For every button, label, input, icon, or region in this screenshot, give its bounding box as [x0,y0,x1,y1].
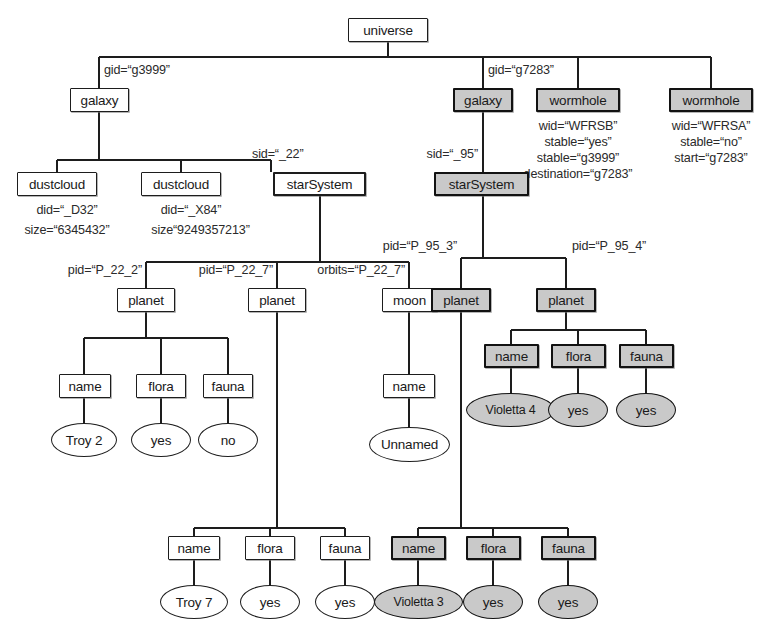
text-troy7-flora[interactable]: yes [240,585,300,619]
attr-gid-g7283: gid=“g7283” [488,62,554,79]
node-planet-95-3-label: planet [443,293,479,308]
attr-wormhole-b-stable-2: stable=“g3999” [498,150,658,167]
node-galaxy-right[interactable]: galaxy [453,88,513,112]
attr-did-x84: did=“_X84” [136,202,246,219]
node-galaxy-left-label: galaxy [81,93,119,108]
node-planet-95-3[interactable]: planet [431,288,491,312]
node-starsystem-22[interactable]: starSystem [273,172,366,196]
node-fauna-violetta3-label: fauna [552,541,585,556]
node-fauna-violetta4-label: fauna [630,349,663,364]
node-universe-label: universe [363,23,412,38]
node-universe[interactable]: universe [348,18,428,42]
attr-did-d32: did=“_D32” [12,202,122,219]
text-violetta4-flora[interactable]: yes [548,393,608,427]
text-violetta4-fauna[interactable]: yes [616,393,676,427]
node-fauna-troy2[interactable]: fauna [203,374,253,398]
node-name-troy7-label: name [178,541,211,556]
attr-wormhole-a-stable: stable=“no” [641,134,761,151]
node-name-violetta4-label: name [495,349,528,364]
node-dustcloud-1[interactable]: dustcloud [17,172,97,196]
text-troy2-fauna[interactable]: no [198,423,258,457]
node-planet-95-4[interactable]: planet [536,288,596,312]
node-name-troy7[interactable]: name [168,536,220,560]
node-starsystem-95[interactable]: starSystem [434,172,529,196]
node-name-moon-label: name [393,379,426,394]
node-galaxy-right-label: galaxy [464,93,502,108]
node-wormhole-b[interactable]: wormhole [536,88,620,112]
text-unnamed[interactable]: Unnamed [369,427,450,462]
text-troy7-flora-label: yes [260,595,280,610]
text-troy2[interactable]: Troy 2 [51,423,117,457]
node-flora-troy7-label: flora [257,541,282,556]
text-troy2-label: Troy 2 [66,433,103,448]
attr-pid-95-3: pid=“P_95_3” [367,238,457,255]
attr-wormhole-b-wid: wid=“WFRSB” [498,118,658,135]
node-name-violetta4[interactable]: name [484,344,539,368]
node-flora-troy2[interactable]: flora [136,374,186,398]
node-name-violetta3-label: name [402,541,435,556]
attr-pid-22-7: pid=“P_22_7” [183,262,273,279]
node-flora-violetta4-label: flora [566,349,591,364]
text-violetta3[interactable]: Violetta 3 [374,585,463,619]
node-name-moon[interactable]: name [383,374,435,398]
diagram-canvas: universe gid=“g3999” gid=“g7283” galaxy … [0,0,761,644]
text-violetta3-fauna[interactable]: yes [538,585,598,619]
text-violetta4-fauna-label: yes [636,403,656,418]
node-moon-22-7-label: moon [393,293,426,308]
attr-wormhole-b-stable: stable=“yes” [498,134,658,151]
text-troy7-fauna[interactable]: yes [315,585,375,619]
node-planet-22-2[interactable]: planet [117,288,175,312]
node-flora-troy2-label: flora [148,379,173,394]
node-name-troy2-label: name [69,379,102,394]
text-troy7-label: Troy 7 [176,595,213,610]
attr-wormhole-a-start: start=“g7283” [641,150,761,167]
node-moon-22-7[interactable]: moon [382,288,437,312]
node-fauna-violetta4[interactable]: fauna [619,344,674,368]
text-violetta4-flora-label: yes [568,403,588,418]
attr-wormhole-a-wid: wid=“WFRSA” [641,118,761,135]
node-galaxy-left[interactable]: galaxy [70,88,129,112]
node-starsystem-22-label: starSystem [287,177,353,192]
node-flora-violetta3[interactable]: flora [466,536,521,560]
node-flora-violetta4[interactable]: flora [551,344,606,368]
node-planet-22-2-label: planet [128,293,164,308]
text-troy2-fauna-label: no [221,433,236,448]
node-wormhole-b-label: wormhole [550,93,607,108]
node-fauna-troy7[interactable]: fauna [320,536,370,560]
attr-size-d32: size=“6345432” [2,222,132,239]
node-flora-violetta3-label: flora [481,541,506,556]
node-dustcloud-2-label: dustcloud [153,177,209,192]
node-fauna-violetta3[interactable]: fauna [541,536,596,560]
text-troy2-flora[interactable]: yes [131,423,191,457]
node-flora-troy7[interactable]: flora [245,536,295,560]
text-violetta3-label: Violetta 3 [394,595,444,609]
text-troy2-flora-label: yes [151,433,171,448]
text-troy7-fauna-label: yes [335,595,355,610]
text-violetta3-flora-label: yes [483,595,503,610]
node-name-violetta3[interactable]: name [391,536,446,560]
node-wormhole-a[interactable]: wormhole [669,88,753,112]
text-unnamed-label: Unnamed [381,437,438,452]
attr-orbits-22-7: orbits=“P_22_7” [295,262,405,279]
node-fauna-troy7-label: fauna [329,541,362,556]
node-name-troy2[interactable]: name [59,374,111,398]
node-planet-22-7-label: planet [259,293,295,308]
node-dustcloud-1-label: dustcloud [29,177,85,192]
attr-sid-95: sid=“_95” [398,146,478,163]
attr-pid-22-2: pid=“P_22_2” [52,262,142,279]
node-planet-95-4-label: planet [548,293,584,308]
text-violetta4[interactable]: Violetta 4 [466,393,555,427]
node-wormhole-a-label: wormhole [683,93,740,108]
attr-size-x84: size“9249357213” [128,222,273,239]
node-starsystem-95-label: starSystem [449,177,515,192]
text-violetta3-flora[interactable]: yes [463,585,523,619]
attr-gid-g3999: gid=“g3999” [104,62,170,79]
text-violetta4-label: Violetta 4 [486,403,536,417]
attr-sid-22: sid=“_22” [252,146,304,163]
text-violetta3-fauna-label: yes [558,595,578,610]
node-planet-22-7[interactable]: planet [248,288,306,312]
node-dustcloud-2[interactable]: dustcloud [141,172,221,196]
text-troy7[interactable]: Troy 7 [160,585,228,619]
attr-pid-95-4: pid=“P_95_4” [572,238,646,255]
node-fauna-troy2-label: fauna [212,379,245,394]
